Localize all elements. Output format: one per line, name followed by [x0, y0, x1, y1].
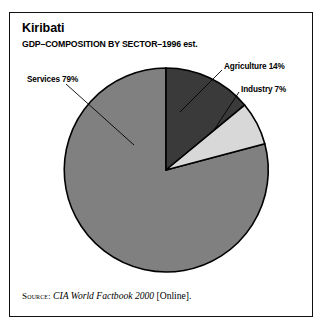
slice-label-services: Services 79%: [27, 74, 78, 84]
source-suffix: [Online].: [154, 290, 191, 301]
slice-label-industry: Industry 7%: [241, 84, 286, 94]
source-label: Source:: [22, 291, 51, 301]
pie-chart: [0, 0, 327, 328]
source-citation: Source: CIA World Factbook 2000 [Online]…: [22, 290, 191, 301]
source-work-title: CIA World Factbook 2000: [53, 290, 154, 301]
chart-figure: Kiribati GDP–COMPOSITION BY SECTOR–1996 …: [0, 0, 327, 328]
slice-label-agriculture: Agriculture 14%: [224, 61, 285, 71]
